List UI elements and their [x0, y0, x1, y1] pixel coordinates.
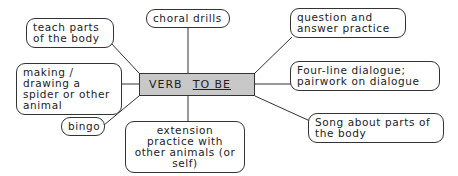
- node-fourline: Four-line dialogue; pairwork on dialogue: [290, 61, 440, 91]
- node-song: Song about parts of the body: [308, 113, 444, 143]
- node-question: question and answer practice: [290, 8, 406, 38]
- node-teach: teach parts of the body: [26, 18, 114, 48]
- node-making: making / drawing a spider or other anima…: [16, 63, 122, 115]
- central-topic-emphasis: TO BE: [193, 78, 231, 91]
- central-topic-prefix: VERB: [149, 78, 183, 91]
- node-bingo: bingo: [61, 117, 105, 136]
- central-topic: VERB TO BE: [139, 73, 255, 96]
- node-choral: choral drills: [146, 9, 230, 28]
- node-extension: extension practice with other animals (o…: [125, 121, 245, 173]
- connector-question: [255, 37, 292, 73]
- connector-song: [255, 96, 310, 121]
